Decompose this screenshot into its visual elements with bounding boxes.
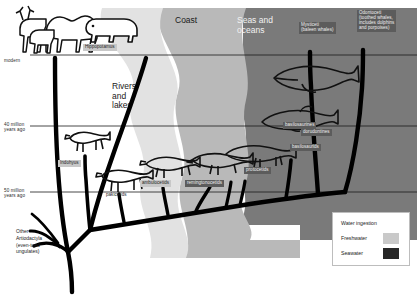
taxon-chip-hippopotamus: Hippopotamus bbox=[83, 44, 117, 51]
hippopotamus-eye-icon bbox=[92, 25, 95, 28]
indohyus-illustration bbox=[62, 128, 112, 154]
branch-modern-artiodactyls bbox=[55, 58, 68, 252]
branch-protocetids-a bbox=[226, 182, 231, 207]
branch-whale-stem bbox=[68, 230, 90, 252]
taxon-chip-pakicetids: pakicetids bbox=[104, 192, 129, 199]
legend-panel: Water ingestion Freshwater Seawater bbox=[332, 212, 410, 266]
branch-ambulocetids bbox=[163, 188, 168, 215]
branch-protocetids-b bbox=[240, 181, 245, 205]
legend-title: Water ingestion bbox=[341, 220, 377, 226]
indohyus-head-icon bbox=[65, 135, 70, 139]
taxon-chip-mysticeti: Mysticeti (baleen whales) bbox=[299, 22, 336, 34]
ambulocetid-head-icon bbox=[140, 161, 146, 165]
baleen-whale-icon bbox=[274, 66, 359, 90]
taxon-chip-basilosaurines: basilosaurines bbox=[283, 122, 316, 129]
baleen-whale-jaw-icon bbox=[275, 78, 298, 80]
legend-swatch-seawater bbox=[383, 248, 399, 259]
goat-icon bbox=[30, 30, 54, 53]
pakicetid-head-icon bbox=[96, 173, 102, 177]
taxon-chip-ambulocetids: ambulocetids bbox=[140, 180, 171, 187]
hippopotamus-illustration bbox=[78, 14, 144, 48]
taxon-chip-indohyus: Indohyus bbox=[58, 160, 81, 167]
branch-indohyus bbox=[85, 156, 90, 230]
taxon-chip-protocetids: protocetids bbox=[244, 167, 271, 174]
taxon-chip-odontoceti: Odontoceti (toothed whales, includes dol… bbox=[357, 10, 396, 32]
baleen-whale-illustration bbox=[268, 60, 364, 100]
ambulocetid-limb-icon bbox=[156, 166, 190, 178]
indohyus-icon bbox=[70, 132, 110, 143]
root-note-other-artiodactyla: Other Artiodactyla (even-toed ungulates) bbox=[16, 228, 42, 255]
legend-label-freshwater: Freshwater bbox=[341, 235, 367, 241]
hippopotamus-icon bbox=[86, 19, 137, 42]
branch-root bbox=[68, 252, 72, 292]
legend-label-seawater: Seawater bbox=[341, 250, 363, 256]
branch-remingtonocetids bbox=[196, 187, 210, 211]
taxon-chip-dorudontines: dorudontines bbox=[301, 129, 332, 136]
taxon-chip-remingtonocetids: remingtonocetids bbox=[185, 180, 224, 187]
figure-canvas: Rivers and lakes Coast Seas and oceans m… bbox=[0, 0, 417, 297]
deer-antler-icon bbox=[16, 6, 34, 20]
legend-swatch-freshwater bbox=[383, 233, 399, 244]
taxon-chip-basilosaurids: basilosaurids bbox=[290, 144, 321, 151]
